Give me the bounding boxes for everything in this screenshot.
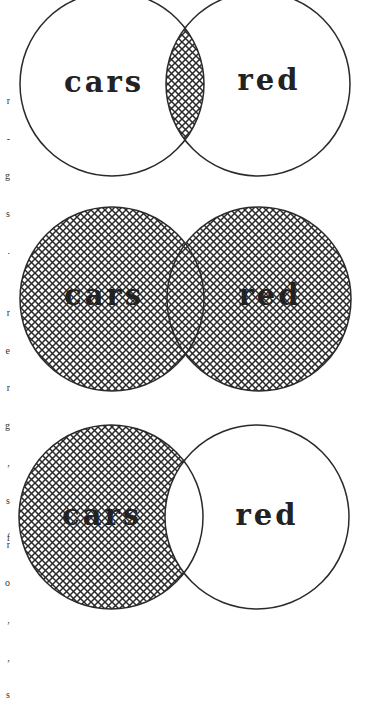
glyph: - (2, 133, 10, 146)
margin-text-fragment-3: r o ‚ ‚ s (2, 514, 10, 702)
glyph: r (2, 95, 10, 108)
venn-diagram-union: cars red (20, 207, 351, 391)
label-red: red (235, 498, 298, 532)
glyph: g (2, 420, 10, 433)
label-red: red (237, 63, 300, 97)
glyph: o (2, 577, 10, 590)
glyph: r (2, 382, 10, 395)
glyph: s (2, 208, 10, 221)
margin-text-fragment-1: r - g s . (2, 70, 10, 270)
label-cars: cars (62, 498, 142, 532)
glyph: r (2, 539, 10, 552)
label-red: red (238, 278, 301, 312)
venn-diagram-left-only: cars red (0, 400, 365, 618)
glyph: s (2, 495, 10, 508)
left-only-shading (0, 400, 365, 618)
glyph: . (2, 245, 10, 258)
glyph: ‚ (2, 457, 10, 470)
glyph: r (2, 307, 10, 320)
glyph: e (2, 345, 10, 358)
glyph: s (2, 689, 10, 702)
label-cars: cars (64, 65, 144, 99)
glyph: g (2, 170, 10, 183)
venn-diagram-intersection: cars red (20, 0, 350, 176)
glyph: ‚ (2, 614, 10, 627)
glyph: ‚ (2, 652, 10, 665)
label-cars: cars (64, 278, 144, 312)
